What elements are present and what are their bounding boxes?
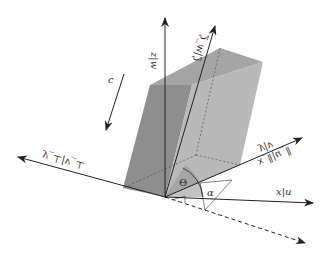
x-axis xyxy=(165,197,313,203)
c-vector-label: c xyxy=(108,74,114,85)
theta-label: Θ xyxy=(179,177,187,188)
x-axis-label: x|u xyxy=(276,186,291,198)
dashed-projection-axis xyxy=(165,197,305,243)
perp-axis-label: y_⊥|v_⊥ xyxy=(40,149,86,172)
alpha-triangle xyxy=(200,180,232,210)
alpha-label: α xyxy=(207,187,214,198)
diagram-canvas: z|w ζ|w_ζ y|v x_∥|u_∥ x|u y_⊥|v_⊥ c Θ α xyxy=(0,0,332,257)
z-axis-label: z|w xyxy=(148,51,160,70)
